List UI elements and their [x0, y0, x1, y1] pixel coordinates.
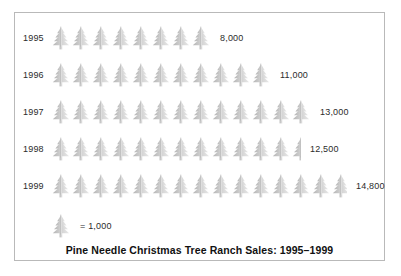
christmas-tree-icon	[111, 137, 131, 161]
pictograph-row: 199812,500	[15, 136, 384, 162]
christmas-tree-icon	[191, 174, 211, 198]
christmas-tree-icon	[171, 63, 191, 87]
christmas-tree-icon	[111, 26, 131, 50]
christmas-tree-icon	[151, 100, 171, 124]
christmas-tree-icon	[51, 137, 71, 161]
christmas-tree-icon	[71, 137, 91, 161]
christmas-tree-icon	[71, 26, 91, 50]
christmas-tree-icon	[151, 174, 171, 198]
christmas-tree-icon	[191, 63, 211, 87]
row-icons: 11,000	[51, 62, 308, 88]
christmas-tree-icon	[291, 174, 311, 198]
row-value-label: 14,800	[356, 181, 385, 191]
row-value-label: 13,000	[320, 107, 349, 117]
christmas-tree-icon	[51, 100, 71, 124]
christmas-tree-icon	[91, 63, 111, 87]
christmas-tree-icon	[151, 137, 171, 161]
christmas-tree-icon	[131, 26, 151, 50]
christmas-tree-icon	[71, 100, 91, 124]
row-value-label: 11,000	[280, 70, 308, 80]
row-icons: 12,500	[51, 136, 339, 162]
christmas-tree-icon	[131, 100, 151, 124]
christmas-tree-icon	[91, 100, 111, 124]
row-icons: 14,800	[51, 173, 385, 199]
christmas-tree-icon	[211, 100, 231, 124]
christmas-tree-icon	[131, 63, 151, 87]
christmas-tree-icon	[211, 137, 231, 161]
christmas-tree-icon	[251, 100, 271, 124]
christmas-tree-icon	[271, 137, 291, 161]
christmas-tree-icon	[131, 137, 151, 161]
christmas-tree-icon	[231, 100, 251, 124]
pictograph-row: 199611,000	[15, 62, 384, 88]
chart-frame: 19958,000199611,000199713,000199812,5001…	[14, 12, 385, 261]
christmas-tree-icon	[171, 26, 191, 50]
christmas-tree-icon	[151, 63, 171, 87]
christmas-tree-icon	[111, 100, 131, 124]
christmas-tree-icon	[191, 26, 211, 50]
christmas-tree-partial-icon	[291, 137, 301, 161]
christmas-tree-icon	[251, 174, 271, 198]
christmas-tree-icon	[91, 174, 111, 198]
christmas-tree-icon	[291, 100, 311, 124]
row-value-label: 12,500	[310, 144, 339, 154]
christmas-tree-icon	[51, 26, 71, 50]
christmas-tree-icon	[171, 137, 191, 161]
christmas-tree-icon	[271, 174, 291, 198]
christmas-tree-icon	[271, 100, 291, 124]
christmas-tree-icon	[251, 137, 271, 161]
legend: = 1,000	[51, 214, 112, 238]
christmas-tree-icon	[71, 63, 91, 87]
christmas-tree-icon	[311, 174, 331, 198]
christmas-tree-icon	[131, 174, 151, 198]
christmas-tree-icon	[211, 63, 231, 87]
christmas-tree-icon	[51, 63, 71, 87]
christmas-tree-icon	[231, 63, 251, 87]
pictograph-row: 199713,000	[15, 99, 384, 125]
pictograph-row: 19958,000	[15, 25, 384, 51]
christmas-tree-icon	[171, 174, 191, 198]
row-icons: 13,000	[51, 99, 349, 125]
christmas-tree-icon	[91, 137, 111, 161]
christmas-tree-icon	[71, 174, 91, 198]
christmas-tree-partial-icon	[331, 174, 347, 198]
christmas-tree-icon	[51, 174, 71, 198]
pictograph-row: 199914,800	[15, 173, 384, 199]
christmas-tree-icon	[171, 100, 191, 124]
christmas-tree-icon	[191, 100, 211, 124]
christmas-tree-icon	[231, 174, 251, 198]
christmas-tree-icon	[51, 214, 71, 238]
chart-title: Pine Needle Christmas Tree Ranch Sales: …	[15, 244, 384, 256]
christmas-tree-icon	[191, 137, 211, 161]
christmas-tree-icon	[111, 174, 131, 198]
christmas-tree-icon	[91, 26, 111, 50]
pictograph-chart: 19958,000199611,000199713,000199812,5001…	[0, 0, 401, 276]
christmas-tree-icon	[151, 26, 171, 50]
christmas-tree-icon	[251, 63, 271, 87]
christmas-tree-icon	[211, 174, 231, 198]
legend-label: = 1,000	[80, 221, 112, 231]
christmas-tree-icon	[111, 63, 131, 87]
christmas-tree-icon	[231, 137, 251, 161]
row-value-label: 8,000	[220, 33, 244, 43]
row-icons: 8,000	[51, 25, 244, 51]
